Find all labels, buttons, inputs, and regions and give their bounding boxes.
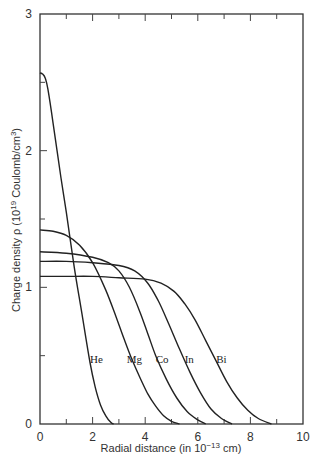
y-tick-label: 2 [25, 144, 32, 158]
y-tick-label: 0 [25, 417, 32, 431]
x-tick-label: 0 [37, 430, 44, 444]
x-tick-label: 2 [89, 430, 96, 444]
label-mg: Mg [127, 353, 143, 365]
curve-labels: HeMgCoInBi [90, 353, 227, 365]
label-bi: Bi [216, 353, 226, 365]
y-tick-label: 3 [25, 7, 32, 21]
y-axis-title: Charge density ρ (1019 Coulomb/cm3) [9, 128, 23, 312]
y-tick-label: 1 [25, 280, 32, 294]
curve-mg [40, 230, 179, 424]
plot-frame [40, 14, 303, 424]
curve-he [40, 73, 114, 424]
data-curves [40, 73, 271, 424]
x-tick-label: 8 [247, 430, 254, 444]
charge-density-chart: 02468100123 HeMgCoInBi Radial distance (… [0, 0, 327, 461]
label-co: Co [156, 353, 169, 365]
x-tick-label: 10 [296, 430, 310, 444]
x-axis-title: Radial distance (in 10−13 cm) [101, 441, 242, 455]
label-he: He [90, 353, 103, 365]
curve-bi [40, 276, 271, 424]
curve-in [40, 261, 232, 424]
label-in: In [185, 353, 195, 365]
plot-border [40, 14, 303, 424]
